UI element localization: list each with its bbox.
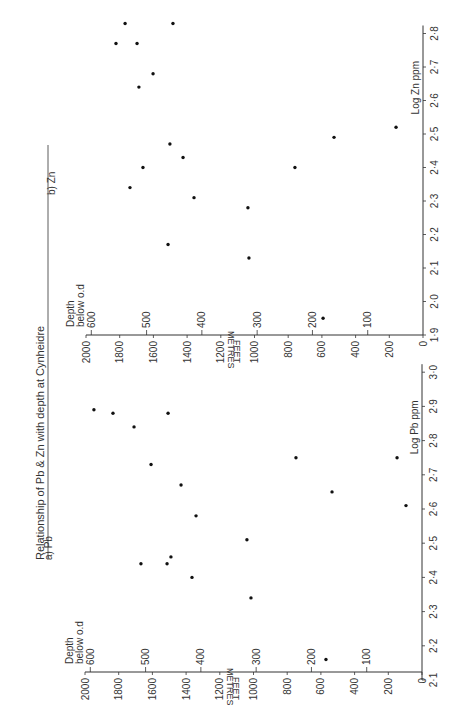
data-point [293, 166, 296, 169]
log-tick-label: 2·1 [428, 672, 439, 687]
data-point [395, 456, 398, 459]
metre-tick-label: 600 [86, 311, 97, 328]
feet-tick-label: 2000 [81, 341, 92, 364]
feet-tick-label: 1000 [249, 341, 260, 364]
data-point [128, 186, 131, 189]
metre-tick-label: 200 [306, 648, 317, 665]
data-point [151, 72, 154, 75]
data-point [294, 456, 297, 459]
data-point [135, 42, 138, 45]
depth-axis-subtitle: below o.d [74, 621, 85, 664]
feet-tick-label: 600 [316, 341, 327, 358]
metre-tick-label: 500 [140, 648, 151, 665]
metre-tick-label: 500 [141, 311, 152, 328]
panel-label: b) Zn [46, 172, 57, 195]
feet-tick-label: 0 [418, 341, 429, 347]
feet-tick-label: 200 [383, 678, 394, 695]
feet-tick-label: 800 [282, 678, 293, 695]
data-point [404, 504, 407, 507]
data-point [245, 538, 248, 541]
feet-tick-label: 0 [417, 678, 428, 684]
metre-unit-label: METRES [226, 331, 236, 369]
scatter-panel-pb: 0200400600800100012001400160018002000100… [43, 364, 439, 705]
data-point [190, 576, 193, 579]
data-point [179, 483, 182, 486]
data-point [169, 555, 172, 558]
data-point [246, 206, 249, 209]
data-point [194, 514, 197, 517]
feet-tick-label: 1800 [114, 341, 125, 364]
feet-tick-label: 1200 [215, 341, 226, 364]
feet-tick-label: 600 [315, 678, 326, 695]
data-point [321, 317, 324, 320]
data-point [166, 243, 169, 246]
log-tick-label: 2·3 [428, 604, 439, 619]
data-point [123, 22, 126, 25]
log-tick-label: 2·0 [429, 294, 440, 309]
depth-axis-subtitle: below o.d [75, 284, 86, 327]
feet-tick-label: 800 [283, 341, 294, 358]
feet-tick-label: 1200 [214, 678, 225, 701]
scatter-panel-zn: 0200400600800100012001400160018002000100… [46, 22, 440, 369]
feet-tick-label: 1600 [148, 341, 159, 364]
data-point [137, 85, 140, 88]
data-point [324, 658, 327, 661]
log-tick-label: 2·3 [429, 193, 440, 208]
metre-tick-label: 300 [251, 648, 262, 665]
metre-unit-label: METRES [225, 668, 235, 706]
feet-tick-label: 1800 [113, 678, 124, 701]
data-point [192, 196, 195, 199]
log-tick-label: 2·6 [428, 501, 439, 516]
log-tick-label: 2·2 [429, 227, 440, 242]
log-tick-label: 2·2 [428, 638, 439, 653]
feet-tick-label: 200 [384, 341, 395, 358]
data-point [332, 136, 335, 139]
feet-tick-label: 1400 [182, 341, 193, 364]
metre-tick-label: 100 [362, 311, 373, 328]
data-point [139, 562, 142, 565]
log-tick-label: 2·1 [429, 260, 440, 275]
metre-tick-label: 400 [196, 311, 207, 328]
metre-tick-label: 400 [195, 648, 206, 665]
data-point [114, 42, 117, 45]
log-tick-label: 2·5 [428, 536, 439, 551]
panel-label: a) Pb [43, 536, 54, 560]
data-point [394, 126, 397, 129]
data-point [165, 562, 168, 565]
data-point [247, 256, 250, 259]
log-tick-label: 2·7 [429, 59, 440, 74]
log-tick-label: 2·4 [428, 570, 439, 585]
log-tick-label: 2·6 [429, 93, 440, 108]
log-tick-label: 2·8 [428, 433, 439, 448]
log-tick-label: 2·9 [428, 399, 439, 414]
feet-tick-label: 2000 [80, 678, 91, 701]
log-tick-label: 2·8 [429, 26, 440, 41]
data-point [171, 22, 174, 25]
log-axis-title: Log Zn ppm [410, 61, 421, 114]
data-point [168, 142, 171, 145]
feet-tick-label: 1400 [181, 678, 192, 701]
data-point [166, 412, 169, 415]
feet-tick-label: 400 [350, 341, 361, 358]
metre-tick-label: 200 [307, 311, 318, 328]
log-tick-label: 2·4 [429, 160, 440, 175]
data-point [249, 596, 252, 599]
log-axis-title: Log Pb ppm [409, 400, 420, 454]
data-point [132, 425, 135, 428]
metre-tick-label: 300 [252, 311, 263, 328]
data-point [141, 166, 144, 169]
data-point [92, 408, 95, 411]
data-point [111, 412, 114, 415]
log-tick-label: 3·0 [428, 365, 439, 380]
data-point [181, 156, 184, 159]
feet-tick-label: 1000 [248, 678, 259, 701]
log-tick-label: 2·5 [429, 126, 440, 141]
metre-tick-label: 100 [361, 648, 372, 665]
log-tick-label: 1·9 [429, 327, 440, 342]
metre-tick-label: 600 [85, 648, 96, 665]
figure-title: Relationship of Pb & Zn with depth at Cy… [34, 326, 46, 560]
data-point [149, 463, 152, 466]
figure-canvas: Relationship of Pb & Zn with depth at Cy… [0, 0, 463, 721]
feet-tick-label: 400 [349, 678, 360, 695]
log-tick-label: 2·7 [428, 467, 439, 482]
